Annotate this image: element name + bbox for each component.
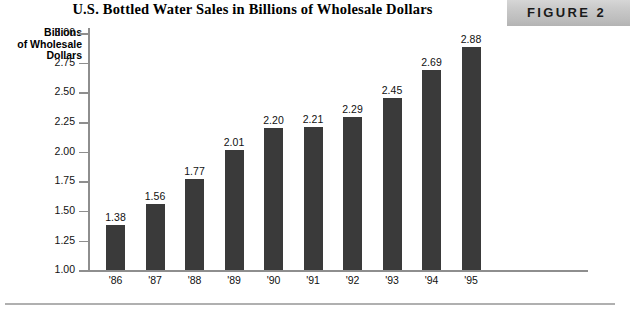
bar-value-label: 2.01: [224, 136, 244, 148]
x-axis-label: '88: [188, 274, 202, 286]
x-axis-label: '87: [148, 274, 162, 286]
bar-value-label: 2.29: [342, 103, 362, 115]
bar: 1.56: [146, 204, 165, 270]
bar: 2.45: [383, 98, 402, 270]
bar: 1.77: [185, 179, 204, 270]
y-axis-tick-label: 1.50: [55, 204, 75, 216]
y-axis-tick: 1.25: [79, 241, 88, 243]
y-axis-tick: 2.75: [79, 63, 88, 65]
bar-value-label: 2.20: [263, 114, 283, 126]
bar-value-label: 2.69: [421, 56, 441, 68]
y-axis-tick-label: 1.00: [55, 263, 75, 275]
bar: 1.38: [106, 225, 125, 270]
x-axis-label: '92: [346, 274, 360, 286]
x-axis-label: '89: [227, 274, 241, 286]
bar-value-label: 1.38: [105, 211, 125, 223]
bar-value-label: 1.77: [184, 165, 204, 177]
bar: 2.20: [264, 128, 283, 270]
page-title: U.S. Bottled Water Sales in Billions of …: [0, 1, 505, 18]
bar: 2.88: [462, 47, 481, 270]
y-axis-tick-label: 2.00: [55, 145, 75, 157]
y-axis-tick: 2.00: [79, 152, 88, 154]
x-axis-label: '95: [464, 274, 478, 286]
y-axis-tick: 1.00: [79, 270, 88, 272]
y-axis-tick-label: 1.25: [55, 234, 75, 246]
x-axis-label: '93: [385, 274, 399, 286]
y-axis-line: [88, 28, 90, 271]
figure-label: FIGURE 2: [507, 5, 626, 20]
y-axis-tick: 1.75: [79, 181, 88, 183]
x-axis-label: '86: [109, 274, 123, 286]
bar: 2.69: [422, 70, 441, 270]
y-axis-tick-label: 1.75: [55, 174, 75, 186]
bar: 2.29: [343, 117, 362, 270]
bar-chart-plot-area: 3.002.752.502.252.001.751.501.251.00 1.3…: [88, 28, 588, 271]
x-axis-label: '94: [425, 274, 439, 286]
figure-banner: FIGURE 2: [507, 0, 630, 26]
x-axis-label: '90: [267, 274, 281, 286]
y-axis-tick: 3.00: [79, 33, 88, 35]
bar-value-label: 2.21: [303, 113, 323, 125]
bar-value-label: 2.45: [382, 84, 402, 96]
bar: 2.21: [304, 127, 323, 270]
x-axis-label: '91: [306, 274, 320, 286]
y-axis-tick: 2.50: [79, 92, 88, 94]
bar-value-label: 2.88: [461, 33, 481, 45]
y-axis-tick-label: 2.75: [55, 56, 75, 68]
x-axis-line: [88, 270, 588, 272]
y-axis-tick: 2.25: [79, 122, 88, 124]
y-axis-tick-label: 3.00: [55, 26, 75, 38]
bar-value-label: 1.56: [145, 190, 165, 202]
y-axis-tick-label: 2.50: [55, 85, 75, 97]
y-axis-tick-label: 2.25: [55, 115, 75, 127]
y-axis-tick: 1.50: [79, 211, 88, 213]
bar: 2.01: [225, 150, 244, 270]
footer-divider: [5, 303, 615, 305]
